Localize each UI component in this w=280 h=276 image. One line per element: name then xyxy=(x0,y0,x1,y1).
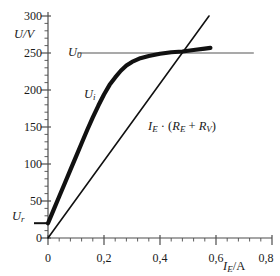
x-axis-title: IE/A xyxy=(223,260,245,274)
y-tick-label-0: 0 xyxy=(8,232,42,244)
y-tick-label-250: 250 xyxy=(8,47,42,59)
y-tick-label-100: 100 xyxy=(8,158,42,170)
y-tick-label-300: 300 xyxy=(8,10,42,22)
x-tick-label-0-2: 0,2 xyxy=(92,252,116,264)
u0-label: U0 xyxy=(68,46,82,60)
ui-label: Ui xyxy=(84,88,96,102)
y-tick-label-50: 50 xyxy=(8,195,42,207)
load-line-label: IE · (RE + RV) xyxy=(148,120,216,134)
chart-plot-area xyxy=(0,0,280,276)
y-axis-title: U/V xyxy=(14,28,34,41)
series-ui-curve xyxy=(48,48,210,223)
x-tick-label-0-8: 0,8 xyxy=(254,252,278,264)
y-tick-label-150: 150 xyxy=(8,121,42,133)
x-tick-label-0: 0 xyxy=(36,252,60,264)
y-tick-label-200: 200 xyxy=(8,84,42,96)
ur-label: Ur xyxy=(12,210,25,224)
chart-figure: 300 250 200 150 100 50 0 U/V 0 0,2 0,4 0… xyxy=(0,0,280,276)
x-tick-label-0-4: 0,4 xyxy=(148,252,172,264)
